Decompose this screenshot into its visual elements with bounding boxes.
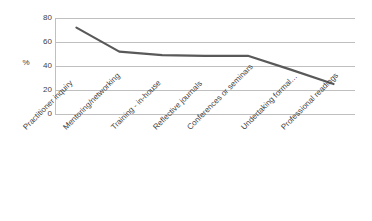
y-tick-label: 80	[18, 14, 52, 22]
x-axis-tick-labels: Practitioner inquiry Mentoring/networkin…	[0, 114, 372, 221]
y-tick-label: 20	[18, 86, 52, 94]
line-chart: % 80 60 40 20 0 Practitioner inquiry Men…	[0, 0, 372, 221]
y-tick-label: 40	[18, 62, 52, 70]
y-tick-label: 60	[18, 38, 52, 46]
